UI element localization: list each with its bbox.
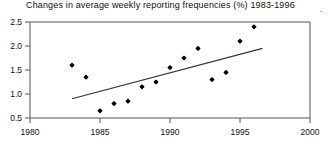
data-point-core: [154, 80, 157, 83]
y-axis-ticks: [25, 22, 30, 118]
x-tick-label: 1995: [231, 127, 250, 137]
data-point-core: [196, 47, 199, 50]
plot-area: 2.5 2.0 1.5 1.0 0.5 1980 1985 1990 1995 …: [0, 0, 332, 144]
data-point-core: [140, 85, 143, 88]
data-point-core: [252, 25, 255, 28]
y-tick-label: 2.0: [10, 41, 22, 51]
data-point-core: [238, 40, 241, 43]
data-point-core: [210, 78, 213, 81]
y-tick-label: 1.0: [10, 89, 22, 99]
data-point-core: [112, 102, 115, 105]
trend-line: [72, 48, 262, 98]
chart-screenshot: Changes in average weekly reporting freq…: [0, 0, 332, 144]
x-tick-label: 1990: [161, 127, 180, 137]
x-tick-label: 1985: [91, 127, 110, 137]
y-tick-label: 0.5: [10, 113, 22, 123]
data-point-core: [182, 56, 185, 59]
y-tick-labels: 2.5 2.0 1.5 1.0 0.5: [10, 17, 22, 123]
x-tick-labels: 1980 1985 1990 1995 2000: [21, 127, 320, 137]
data-point-core: [84, 76, 87, 79]
data-point-series: [69, 24, 256, 113]
y-tick-label: 2.5: [10, 17, 22, 27]
data-point-core: [98, 109, 101, 112]
x-tick-label: 1980: [21, 127, 40, 137]
data-point-core: [168, 66, 171, 69]
x-axis-ticks: [30, 118, 310, 123]
data-point-core: [70, 63, 73, 66]
data-point-core: [224, 71, 227, 74]
data-point-core: [126, 100, 129, 103]
x-tick-label: 2000: [301, 127, 320, 137]
y-tick-label: 1.5: [10, 65, 22, 75]
